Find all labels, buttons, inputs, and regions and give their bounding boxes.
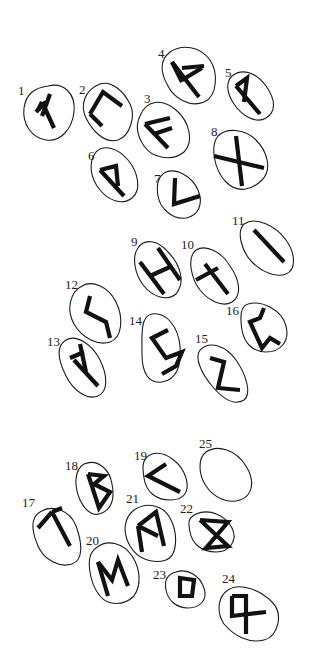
rune-stone-23: 23 (153, 567, 205, 608)
stone-number-label: 10 (181, 237, 194, 252)
rune-stone-12: 12 (65, 277, 121, 343)
stone-outline (70, 284, 121, 343)
stone-number-label: 2 (79, 82, 86, 97)
stone-number-label: 3 (144, 91, 151, 106)
stone-number-label: 19 (134, 448, 147, 463)
stone-number-label: 14 (129, 313, 143, 328)
rune-stone-7: 7 (154, 171, 200, 218)
rune-stone-17: 17 (22, 495, 81, 565)
stone-number-label: 20 (86, 533, 99, 548)
stone-number-label: 7 (154, 171, 161, 186)
rune-stone-19: 19 (134, 448, 187, 500)
stone-number-label: 12 (65, 277, 78, 292)
stone-number-label: 22 (180, 501, 193, 516)
stone-number-label: 11 (232, 213, 245, 228)
rune-stone-3: 3 (137, 91, 189, 158)
rune-stone-5: 5 (225, 65, 274, 120)
rune-stone-22: 22 (180, 501, 234, 552)
stone-number-label: 1 (18, 83, 25, 98)
stones-layer: 1234567891011121314151617181920212223242… (18, 46, 294, 641)
rune-stone-11: 11 (232, 213, 294, 275)
stone-outline (240, 221, 293, 275)
stone-number-label: 24 (222, 571, 236, 586)
stone-number-label: 13 (47, 334, 60, 349)
rune-stone-13: 13 (47, 334, 106, 397)
stone-outline (91, 148, 138, 202)
stone-number-label: 15 (195, 331, 208, 346)
rune-stone-1: 1 (18, 83, 74, 140)
stone-number-label: 21 (126, 491, 139, 506)
stone-number-label: 23 (153, 567, 166, 582)
rune-stone-8: 8 (211, 124, 268, 189)
stone-number-label: 5 (225, 65, 232, 80)
stone-outline (200, 448, 252, 501)
rune-stone-6: 6 (88, 148, 138, 202)
stone-number-label: 8 (211, 124, 218, 139)
rune-stone-15: 15 (195, 331, 248, 402)
rune-stone-2: 2 (79, 82, 132, 141)
rune-stone-10: 10 (181, 237, 239, 304)
rune-stones-diagram: 1234567891011121314151617181920212223242… (0, 0, 311, 664)
rune-stone-4: 4 (158, 46, 215, 104)
stone-number-label: 16 (226, 303, 240, 318)
rune-stone-14: 14 (129, 313, 182, 382)
stone-outline (228, 72, 274, 120)
stone-number-label: 18 (65, 458, 78, 473)
stone-number-label: 6 (88, 148, 95, 163)
rune-stone-16: 16 (226, 303, 287, 352)
rune-stone-25: 25 (199, 436, 252, 501)
rune-stone-9: 9 (131, 234, 181, 298)
stone-outline (157, 171, 200, 218)
stone-number-label: 25 (199, 436, 212, 451)
rune-stone-24: 24 (219, 571, 278, 641)
stone-number-label: 9 (131, 234, 138, 249)
rune-stone-21: 21 (125, 491, 176, 561)
stone-outline (165, 571, 205, 608)
stone-number-label: 4 (158, 46, 165, 61)
stone-number-label: 17 (22, 495, 36, 510)
rune-stone-18: 18 (65, 458, 113, 514)
